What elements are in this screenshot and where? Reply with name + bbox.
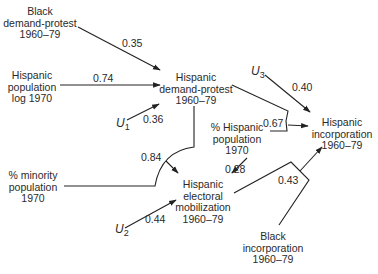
coef-black-protest: 0.35 [122, 37, 142, 49]
node-hispanic-demand-protest: Hispanic demand-protest 1960–79 [158, 72, 234, 107]
node-black-incorporation: Black incorporation 1960–79 [241, 231, 305, 266]
coef-hisp-pct: 0.28 [225, 163, 245, 175]
coef-u2: 0.44 [145, 213, 165, 225]
node-hispanic-incorporation: Hispanic incorporation 1960–79 [310, 117, 374, 152]
node-black-demand-protest: Black demand-protest 1960–79 [2, 6, 78, 41]
coef-protest-hisppct-joint: 0.67 [263, 117, 283, 129]
node-hispanic-electoral-mobilization: Hispanic electoral mobilization 1960–79 [174, 179, 232, 225]
arrow-joint-to-electoral [166, 161, 178, 173]
error-term-u3: U3 [251, 64, 265, 80]
coef-u1: 0.36 [143, 113, 163, 125]
coef-electoral-blackincorp-joint: 0.43 [278, 174, 298, 186]
error-term-u1: U1 [116, 116, 130, 132]
coef-minority-protest-joint: 0.84 [141, 151, 161, 163]
node-pct-hispanic-population: % Hispanic population 1970 [206, 122, 268, 157]
arrow-joint-to-hisp-incorp [288, 125, 308, 126]
error-term-u2: U2 [115, 222, 129, 238]
node-hispanic-population-log: Hispanic population log 1970 [4, 70, 60, 105]
coef-hisp-pop-log: 0.74 [93, 72, 113, 84]
arrow-black-protest-to-hispanic-protest [78, 27, 160, 70]
coef-u3: 0.40 [292, 81, 312, 93]
node-pct-minority-population: % minority population 1970 [4, 170, 62, 205]
